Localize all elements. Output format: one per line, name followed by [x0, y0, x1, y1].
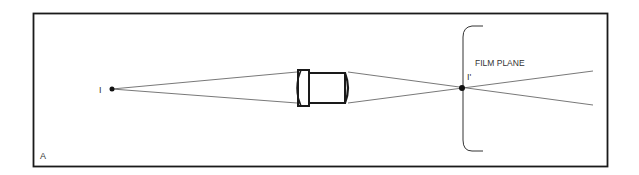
ray-upper-incoming [112, 72, 297, 89]
object-point [110, 87, 115, 92]
ray-lower-incoming [112, 89, 297, 103]
image-point [459, 85, 465, 91]
film-plane-label: FILM PLANE [475, 59, 525, 68]
object-point-label: I [99, 86, 102, 95]
image-point-label: I' [467, 73, 471, 82]
lens-icon [297, 70, 348, 106]
panel-label: A [40, 152, 46, 161]
optics-diagram [0, 0, 639, 175]
